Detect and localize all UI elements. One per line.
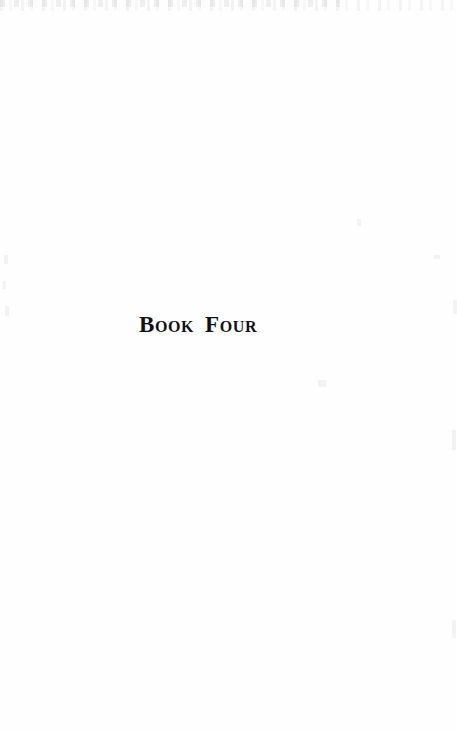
scan-speck xyxy=(5,306,9,316)
part-title-word-book: Book xyxy=(139,312,194,337)
part-title-word-four: Four xyxy=(205,312,257,337)
scan-speck xyxy=(452,620,456,638)
scan-speck xyxy=(318,380,326,387)
scan-artifact-top-band xyxy=(0,0,457,11)
scan-speck xyxy=(453,300,457,314)
part-title: BookFour xyxy=(139,313,257,336)
scan-speck xyxy=(452,430,456,450)
scan-speck xyxy=(4,255,8,264)
scan-speck xyxy=(357,219,361,226)
scan-speck xyxy=(3,281,6,289)
book-part-title-page: BookFour xyxy=(0,0,457,730)
scan-speck xyxy=(434,255,440,259)
